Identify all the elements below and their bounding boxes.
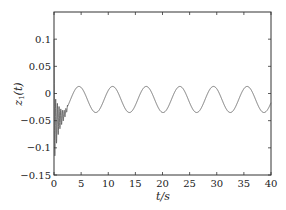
y-tick-label: −0.05 <box>20 115 51 126</box>
y-tick-label: 0.05 <box>29 61 51 72</box>
svg-text:z1(t): z1(t) <box>12 82 26 106</box>
y-tick-label: −0.1 <box>27 142 51 153</box>
y-label-arg: (t) <box>12 82 25 95</box>
x-tick-label: 25 <box>183 178 196 189</box>
y-axis-label: z1(t) <box>12 82 26 106</box>
plot-area <box>54 12 271 175</box>
x-axis-label: t/s <box>156 190 170 203</box>
x-tick-label: 5 <box>78 178 84 189</box>
y-tick-label: 0.1 <box>35 34 51 45</box>
x-tick-label: 0 <box>51 178 57 189</box>
line-chart: 0510152025303540 −0.15−0.1−0.0500.050.1 … <box>0 0 286 210</box>
x-tick-label: 35 <box>238 178 251 189</box>
x-tick-label: 10 <box>102 178 115 189</box>
x-tick-label: 15 <box>129 178 142 189</box>
x-tick-label: 40 <box>265 178 278 189</box>
y-tick-label: 0 <box>45 88 51 99</box>
x-tick-label: 20 <box>156 178 169 189</box>
plot-frame <box>54 12 271 175</box>
y-tick-label: −0.15 <box>20 170 51 181</box>
x-tick-label: 30 <box>210 178 223 189</box>
